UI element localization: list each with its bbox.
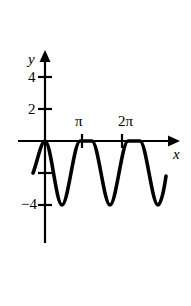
cosine-curve: [33, 141, 166, 205]
y-tick-label-4: 4: [28, 70, 36, 85]
y-tick-label-2: 2: [28, 102, 36, 117]
graph-figure: y x 4 2 −4 π 2π: [0, 0, 191, 306]
y-axis-arrowhead: [40, 50, 51, 62]
x-tick-label-pi: π: [75, 114, 83, 129]
x-tick-label-2pi: 2π: [118, 114, 133, 129]
coordinate-plane: [0, 0, 191, 306]
x-axis-label: x: [173, 147, 180, 162]
y-axis-label: y: [28, 52, 35, 67]
x-axis-arrowhead: [168, 136, 180, 147]
y-tick-label-neg4: −4: [21, 197, 37, 212]
